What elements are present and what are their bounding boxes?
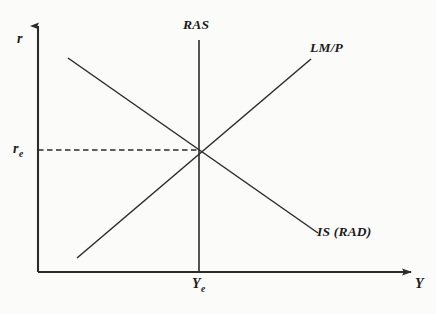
- equilibrium-output-label-base: Y: [192, 276, 201, 291]
- x-axis-label: Y: [415, 277, 424, 291]
- curve-label-is-rad: IS (RAD): [317, 225, 372, 239]
- curve-label-is-rad-text: IS (RAD): [317, 224, 372, 239]
- equilibrium-rate-label: re: [13, 142, 23, 156]
- y-axis-label-text: r: [17, 31, 22, 46]
- equilibrium-output-label: Ye: [192, 277, 205, 291]
- economics-diagram: r re RAS LM/P IS (RAD) Ye Y: [0, 0, 436, 314]
- x-axis-label-text: Y: [415, 276, 424, 291]
- equilibrium-rate-label-subscript: e: [19, 149, 23, 159]
- equilibrium-output-label-subscript: e: [201, 284, 205, 294]
- y-axis-label: r: [17, 32, 22, 46]
- diagram-canvas: [0, 0, 436, 314]
- curve-label-lm-p-text: LM/P: [310, 40, 343, 55]
- equilibrium-rate-label-base: r: [13, 141, 18, 156]
- curve-label-ras: RAS: [183, 18, 209, 32]
- curve-label-ras-text: RAS: [183, 17, 209, 32]
- curve-label-lm-p: LM/P: [310, 41, 343, 55]
